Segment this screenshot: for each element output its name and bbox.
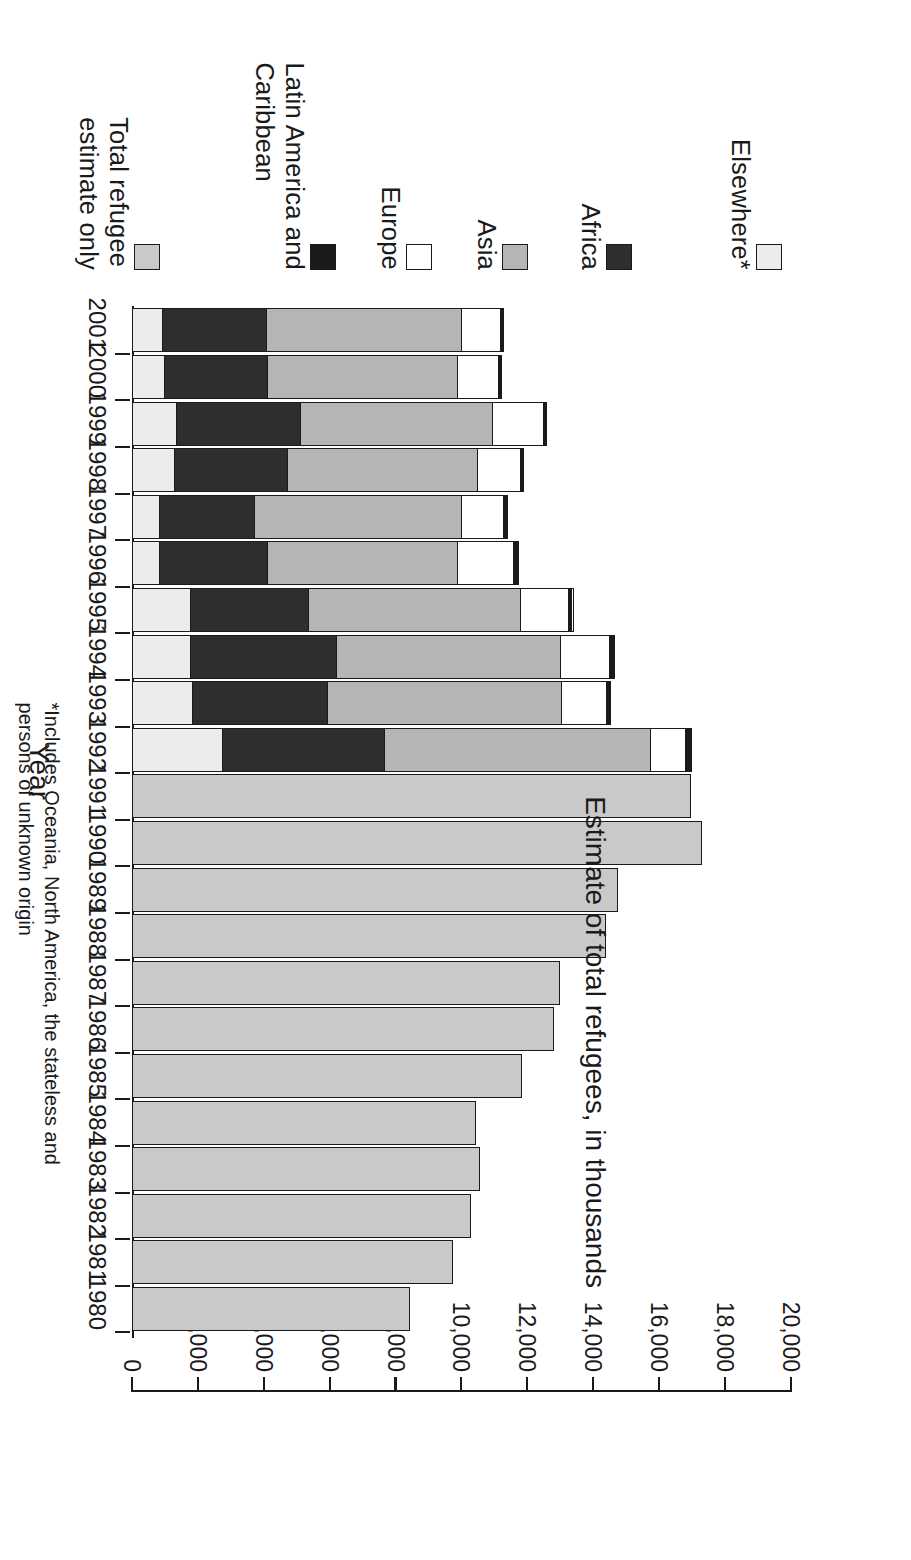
bar-segment (520, 589, 568, 631)
category-tick (115, 399, 130, 401)
category-tick-label: 1987 (83, 950, 111, 1003)
bar-segment (606, 682, 611, 724)
category-tick-label: 1993 (83, 671, 111, 724)
bar-segment (336, 636, 559, 678)
value-tick (658, 1377, 660, 1392)
bar-segment (133, 636, 190, 678)
bar-segment (492, 403, 543, 445)
category-tick-label: 1998 (83, 438, 111, 491)
category-tick (115, 1098, 130, 1100)
legend-label-total: Total refugee estimate only (74, 117, 134, 270)
category-tick (115, 1192, 130, 1194)
category-tick-label: 1984 (83, 1090, 111, 1143)
bar-segment (650, 729, 684, 771)
category-tick (115, 446, 130, 448)
category-tick-label: 1999 (83, 391, 111, 444)
bar-2000 (132, 355, 502, 399)
category-tick (115, 865, 130, 867)
category-tick (115, 819, 130, 821)
bar-segment (174, 449, 287, 491)
value-tick-label: 18,000 (711, 1302, 738, 1372)
bar-segment (176, 403, 301, 445)
bar-segment (133, 729, 222, 771)
legend-item-elsewhere: Elsewhere* (726, 139, 791, 270)
bar-segment (133, 869, 617, 911)
bar-segment (222, 729, 385, 771)
value-tick (394, 1377, 396, 1392)
bar-segment (561, 682, 605, 724)
category-tick-label: 1986 (83, 997, 111, 1050)
value-tick (790, 1377, 792, 1392)
category-tick-label: 1997 (83, 484, 111, 537)
bar-segment (133, 915, 605, 957)
bar-segment (159, 542, 267, 584)
bar-segment (568, 589, 573, 631)
value-tick-label: 14,000 (579, 1302, 606, 1372)
bar-segment (133, 496, 159, 538)
legend-swatch-elsewhere (756, 244, 782, 270)
value-tick-label: 20,000 (777, 1302, 804, 1372)
bar-segment (308, 589, 520, 631)
category-tick (115, 726, 130, 728)
bar-1981 (132, 1240, 453, 1284)
bar-1984 (132, 1101, 476, 1145)
bar-segment (500, 309, 503, 351)
category-tick (115, 772, 130, 774)
bar-segment (477, 449, 520, 491)
value-tick (329, 1377, 331, 1392)
bar-segment (133, 1195, 470, 1237)
bar-segment (300, 403, 492, 445)
category-tick (115, 1331, 130, 1333)
bar-1982 (132, 1194, 471, 1238)
category-tick (115, 493, 130, 495)
bar-1994 (132, 635, 615, 679)
value-tick (526, 1377, 528, 1392)
category-tick-label: 1988 (83, 904, 111, 957)
bar-segment (133, 403, 176, 445)
category-tick-label: 1985 (83, 1044, 111, 1097)
value-tick (460, 1377, 462, 1392)
category-tick (115, 586, 130, 588)
category-tick-label: 1981 (83, 1230, 111, 1283)
category-tick (115, 1052, 130, 1054)
legend-item-asia: Asia (472, 220, 537, 270)
bar-segment (133, 1241, 452, 1283)
value-tick-label: 12,000 (513, 1302, 540, 1372)
category-tick (115, 912, 130, 914)
bar-segment (498, 356, 501, 398)
value-tick (197, 1377, 199, 1392)
bar-segment (133, 1288, 409, 1330)
bar-1986 (132, 1007, 554, 1051)
bar-1996 (132, 541, 519, 585)
refugee-stacked-bar-figure: 02,0004,0006,0008,00010,00012,00014,0001… (0, 0, 911, 1560)
value-tick-label: 10,000 (448, 1302, 475, 1372)
bar-segment (457, 356, 498, 398)
bar-2001 (132, 308, 504, 352)
plot-area: 02,0004,0006,0008,00010,00012,00014,0001… (0, 310, 911, 1560)
bar-segment (192, 682, 327, 724)
bar-segment (133, 589, 190, 631)
category-tick-label: 1990 (83, 811, 111, 864)
category-tick-label: 1991 (83, 764, 111, 817)
value-axis-title: Estimate of total refugees, in thousands (579, 796, 611, 1288)
bar-1997 (132, 495, 508, 539)
legend-swatch-total (134, 244, 160, 270)
bar-segment (133, 822, 701, 864)
category-tick (115, 632, 130, 634)
legend-item-europe: Europe (376, 187, 441, 270)
bar-segment (520, 449, 523, 491)
bar-1985 (132, 1054, 522, 1098)
bar-segment (164, 356, 267, 398)
bar-1983 (132, 1147, 480, 1191)
legend: Total refugee estimate onlyLatin America… (0, 10, 911, 310)
bar-segment (163, 309, 266, 351)
bar-segment (503, 496, 506, 538)
legend-item-africa: Africa (576, 204, 641, 270)
category-tick (115, 353, 130, 355)
legend-swatch-africa (606, 244, 632, 270)
category-tick-label: 1996 (83, 531, 111, 584)
bar-segment (685, 729, 692, 771)
value-tick (724, 1377, 726, 1392)
bar-1987 (132, 961, 560, 1005)
legend-swatch-latin_america (310, 244, 336, 270)
